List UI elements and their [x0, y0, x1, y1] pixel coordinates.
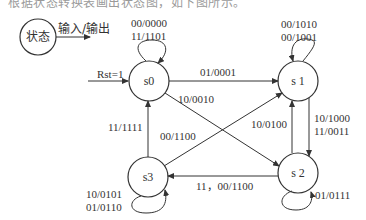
reset-label: Rst=1: [97, 68, 123, 80]
s0-to-s2-label: 10/0010: [178, 93, 215, 105]
state-s1-label: s 1: [291, 74, 305, 88]
s3-to-s1-label: 00/1100: [160, 130, 196, 142]
s1-self-label-2: 00/1001: [281, 31, 317, 43]
s0-self-label-2: 11/1101: [131, 30, 166, 42]
s1-to-s2-label-1: 10/1000: [314, 112, 351, 124]
s3-self-label-2: 01/0110: [86, 201, 122, 213]
s0-self-loop: [138, 40, 166, 63]
s0-to-s1-label: 01/0001: [200, 66, 236, 78]
state-s0-label: s0: [144, 74, 155, 88]
state-s3: s3: [128, 157, 168, 197]
s0-self-label-1: 00/0000: [131, 17, 168, 29]
state-s2-label: s 2: [291, 166, 305, 180]
s3-to-s0-label: 11/1111: [108, 121, 142, 133]
legend: 状态 输入/输出: [20, 19, 110, 55]
s3-self-label-1: 10/0101: [86, 188, 122, 200]
state-s0: s0: [129, 61, 169, 101]
state-s1: s 1: [278, 61, 318, 101]
s2-to-s1-label: 10/0100: [251, 118, 288, 130]
s1-self-label-1: 00/1010: [281, 18, 318, 30]
state-s2: s 2: [278, 153, 318, 193]
s1-to-s2-label-2: 11/0011: [314, 125, 349, 137]
s2-self-label: 01/0111: [315, 189, 350, 201]
legend-state-label: 状态: [26, 30, 50, 44]
state-diagram: 状态 输入/输出 s0 s 1 s 2 s3 Rst=1 00/0000 11/…: [0, 0, 366, 220]
legend-arrow-label: 输入/输出: [58, 21, 110, 36]
state-s3-label: s3: [143, 170, 154, 184]
s2-to-s3-label: 11，00/1100: [196, 180, 254, 192]
s2-self-loop: [282, 191, 312, 210]
